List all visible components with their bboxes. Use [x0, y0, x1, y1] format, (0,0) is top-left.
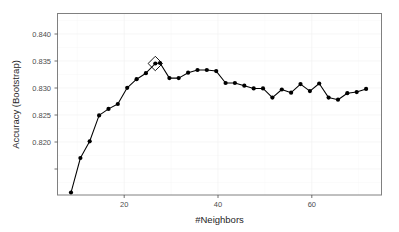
x-tick-label-2: 60	[308, 200, 316, 209]
y-tick-label-3: 0.825	[32, 111, 51, 120]
y-tick-label-2: 0.830	[32, 84, 51, 93]
plot-panel-background	[58, 14, 382, 196]
chart-canvas: 0.840 0.835 0.830 0.825 0.820 20 40 60 #…	[0, 0, 399, 232]
y-tick-label-0: 0.840	[32, 30, 51, 39]
x-axis-title: #Neighbors	[195, 214, 244, 225]
y-axis-title: Accuracy (Bootstrap)	[10, 60, 21, 149]
y-tick-label-4: 0.820	[32, 138, 51, 147]
x-tick-label-0: 20	[120, 200, 128, 209]
x-tick-label-1: 40	[214, 200, 222, 209]
chart-figure: 0.840 0.835 0.830 0.825 0.820 20 40 60 #…	[0, 0, 399, 232]
y-tick-label-1: 0.835	[32, 57, 51, 66]
